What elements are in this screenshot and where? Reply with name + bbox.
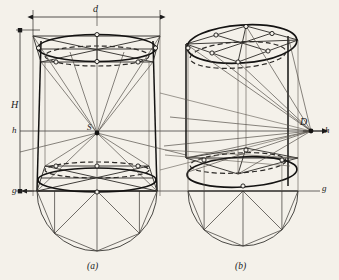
ray-a-11: [97, 133, 149, 166]
ray-a-2: [97, 36, 160, 133]
tpoint-b-11: [280, 158, 284, 162]
ray-b-5: [186, 131, 311, 158]
tpoint-b-4: [210, 51, 214, 55]
ray-a-13: [20, 133, 97, 152]
caption-panel-a: (a): [87, 262, 98, 272]
label-ground-left: g: [12, 186, 17, 195]
plan-radial-a-2: [55, 191, 97, 233]
tpoint-a-2: [36, 46, 40, 50]
plan-chord-a-4: [97, 233, 139, 251]
label-distance-point: D: [300, 117, 307, 127]
figure-drawing-canvas: [0, 0, 339, 280]
label-horizon-right: h: [325, 126, 330, 135]
label-horizon-left: h: [12, 126, 17, 135]
tpoint-b-2: [214, 33, 218, 37]
plan-chord-b-2: [282, 191, 298, 230]
tpoint-b-8: [241, 184, 245, 188]
plan-radial-b-2: [204, 191, 243, 230]
tpoint-a-6: [95, 59, 99, 63]
label-height: H: [11, 100, 18, 110]
tpoint-a-1: [95, 33, 99, 37]
label-ground-right: g: [322, 184, 327, 193]
caption-panel-b: (b): [235, 262, 246, 272]
ray-b-8: [170, 117, 311, 131]
distance-point-b-marker: [309, 129, 314, 134]
panel-a-construction: [20, 33, 186, 252]
tpoint-b-10: [202, 158, 206, 162]
tpoint-a-3: [153, 46, 157, 50]
ray-a-7: [97, 52, 124, 133]
ray-b-1: [186, 44, 311, 131]
label-station-point: S: [87, 123, 92, 132]
panel-a-plan-radials: [37, 191, 157, 251]
panel-b-plan-radials: [188, 191, 298, 246]
panel-b-top-square: [186, 26, 298, 62]
tpoint-b-3: [270, 31, 274, 35]
ray-a-1: [33, 36, 97, 133]
tpoint-a-4: [54, 60, 58, 64]
tpoint-a-10: [136, 164, 140, 168]
plan-chord-a-2: [139, 191, 157, 233]
tpoint-a-9: [54, 164, 58, 168]
plan-chord-a-3: [55, 233, 97, 251]
tpoint-b-7: [186, 46, 190, 50]
ray-a-8: [37, 133, 97, 191]
plan-radial-a-3: [97, 191, 139, 233]
plan-radial-b-3: [243, 191, 282, 230]
ray-b-4: [212, 53, 311, 131]
plan-chord-b-1: [188, 191, 204, 230]
panel-b-construction: [160, 21, 313, 246]
station-point-a-marker: [95, 131, 100, 136]
tpoint-a-7: [95, 190, 99, 194]
ray-a-14: [97, 133, 186, 155]
label-diameter: d: [93, 4, 98, 14]
plan-chord-b-3: [204, 230, 243, 246]
ray-a-6: [70, 52, 97, 133]
tpoint-b-6: [236, 60, 240, 64]
ray-a-4: [97, 62, 153, 133]
tpoint-a-8: [95, 164, 99, 168]
plan-chord-a-1: [37, 191, 55, 233]
tpoint-b-1: [244, 24, 248, 28]
tpoint-a-5: [136, 60, 140, 64]
ray-a-10: [45, 133, 97, 166]
tpoint-b-9: [244, 148, 248, 152]
cylinder-a-left-edge: [37, 41, 41, 191]
tpoint-b-5: [266, 49, 270, 53]
cylinder-a-right-edge: [153, 41, 157, 191]
height-tick-top: [18, 28, 22, 32]
plan-chord-b-4: [243, 230, 282, 246]
perspective-cylinder-figure: d H h h g g S D (a) (b): [0, 0, 339, 280]
